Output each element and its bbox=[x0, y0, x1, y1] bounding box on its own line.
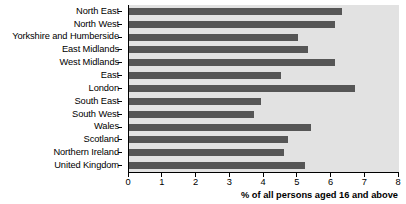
value-tick-label: 0 bbox=[125, 178, 130, 187]
bar bbox=[129, 111, 254, 118]
category-label: East Midlands bbox=[0, 44, 122, 57]
category-axis: North EastNorth WestYorkshire and Humber… bbox=[0, 5, 122, 172]
bar-row bbox=[129, 159, 399, 172]
category-label-text: Wales bbox=[94, 122, 119, 131]
category-label-text: East Midlands bbox=[62, 45, 119, 54]
value-tick-label: 6 bbox=[328, 178, 333, 187]
bar-row bbox=[129, 146, 399, 159]
category-tick bbox=[118, 37, 122, 38]
bar bbox=[129, 162, 305, 169]
category-label: Northern Ireland bbox=[0, 146, 122, 159]
category-label-text: Northern Ireland bbox=[53, 148, 119, 157]
category-label-text: South West bbox=[72, 110, 119, 119]
value-tick-label: 8 bbox=[395, 178, 400, 187]
axis-caption: % of all persons aged 16 and above bbox=[241, 191, 398, 200]
plot-area bbox=[128, 5, 399, 172]
bar-row bbox=[129, 133, 399, 146]
category-tick bbox=[118, 127, 122, 128]
category-label: London bbox=[0, 82, 122, 95]
value-tick-label: 1 bbox=[159, 178, 164, 187]
category-label-text: United Kingdom bbox=[54, 161, 119, 170]
bar-row bbox=[129, 56, 399, 69]
category-label: Yorkshire and Humberside bbox=[0, 31, 122, 44]
category-label-text: North East bbox=[76, 7, 119, 16]
category-label: West Midlands bbox=[0, 56, 122, 69]
category-tick bbox=[118, 152, 122, 153]
category-tick bbox=[118, 75, 122, 76]
category-label-text: Yorkshire and Humberside bbox=[12, 32, 119, 41]
category-label: United Kingdom bbox=[0, 159, 122, 172]
category-label: North West bbox=[0, 18, 122, 31]
category-tick bbox=[118, 62, 122, 63]
bar bbox=[129, 46, 308, 53]
bar-row bbox=[129, 18, 399, 31]
bar bbox=[129, 21, 335, 28]
value-tick-label: 7 bbox=[362, 178, 367, 187]
category-tick bbox=[118, 88, 122, 89]
category-label-text: East bbox=[101, 71, 119, 80]
bar-chart: North EastNorth WestYorkshire and Humber… bbox=[0, 0, 406, 204]
bar bbox=[129, 98, 261, 105]
bar bbox=[129, 149, 284, 156]
value-axis: % of all persons aged 16 and above 01234… bbox=[128, 172, 398, 204]
bar-row bbox=[129, 108, 399, 121]
bar bbox=[129, 85, 355, 92]
value-tick-label: 2 bbox=[193, 178, 198, 187]
value-tick-label: 4 bbox=[260, 178, 265, 187]
category-label-text: South East bbox=[75, 97, 119, 106]
bar-row bbox=[129, 95, 399, 108]
bar bbox=[129, 34, 298, 41]
category-label: South West bbox=[0, 108, 122, 121]
bar bbox=[129, 8, 342, 15]
bar-row bbox=[129, 31, 399, 44]
category-tick bbox=[118, 11, 122, 12]
category-label: Scotland bbox=[0, 133, 122, 146]
value-tick-label: 5 bbox=[294, 178, 299, 187]
category-label: East bbox=[0, 69, 122, 82]
bar bbox=[129, 136, 288, 143]
category-label: South East bbox=[0, 95, 122, 108]
category-tick bbox=[118, 101, 122, 102]
bar-row bbox=[129, 5, 399, 18]
bar-row bbox=[129, 69, 399, 82]
category-label-text: London bbox=[89, 84, 119, 93]
bar-row bbox=[129, 44, 399, 57]
bar bbox=[129, 72, 281, 79]
category-label-text: Scotland bbox=[84, 135, 119, 144]
bar bbox=[129, 59, 335, 66]
category-tick bbox=[118, 114, 122, 115]
bar bbox=[129, 124, 311, 131]
bar-series bbox=[129, 5, 399, 172]
category-tick bbox=[118, 24, 122, 25]
category-tick bbox=[118, 139, 122, 140]
bar-row bbox=[129, 82, 399, 95]
category-label-text: West Midlands bbox=[60, 58, 120, 67]
category-label: Wales bbox=[0, 121, 122, 134]
value-tick-label: 3 bbox=[227, 178, 232, 187]
category-label-text: North West bbox=[74, 20, 119, 29]
category-label: North East bbox=[0, 5, 122, 18]
category-tick bbox=[118, 49, 122, 50]
category-tick bbox=[118, 165, 122, 166]
bar-row bbox=[129, 121, 399, 134]
